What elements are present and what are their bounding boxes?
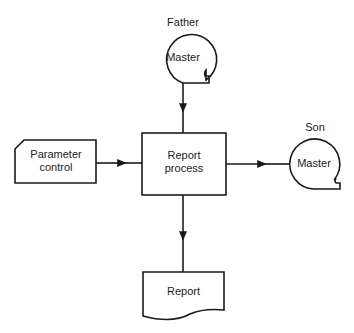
process-label-1: Report <box>142 149 226 162</box>
process-label-2: process <box>142 162 226 175</box>
parameter-label-1: Parameter <box>18 148 94 161</box>
son-caption: Son <box>290 121 340 134</box>
son-label: Master <box>289 157 339 170</box>
father-caption: Father <box>158 16 208 29</box>
report-label: Report <box>143 285 224 298</box>
father-label: Master <box>158 51 208 64</box>
parameter-label-2: control <box>18 161 94 174</box>
